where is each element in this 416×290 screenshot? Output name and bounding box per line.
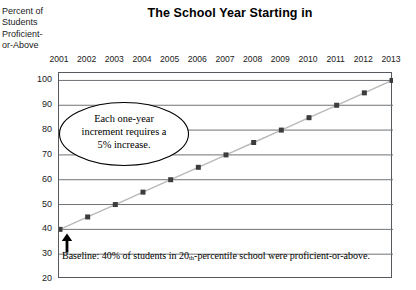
- data-point-marker: [224, 152, 229, 157]
- y-axis-tick-label: 70: [42, 149, 52, 159]
- x-axis-tick-label: 2001: [49, 54, 68, 64]
- x-axis-tick-label: 2005: [160, 54, 179, 64]
- data-point-marker: [390, 78, 394, 83]
- y-axis-tick-label: 20: [42, 273, 52, 283]
- data-point-marker: [113, 202, 118, 207]
- data-point-marker: [251, 140, 256, 145]
- y-axis-tick-label: 30: [42, 248, 52, 258]
- x-axis-tick-label: 2011: [326, 54, 344, 64]
- baseline-note-rest: -percentile school were proficient-or-ab…: [194, 250, 370, 261]
- y-axis-title: Percent of Students Proficient- or-Above: [2, 6, 62, 52]
- y-axis-title-line-4: or-Above: [2, 40, 62, 51]
- baseline-note-prefix: Baseline: 40% of students in 20: [62, 250, 189, 261]
- data-point-marker: [307, 115, 312, 120]
- x-axis-tick-labels: 2001200220032004200520062007200820092010…: [58, 54, 392, 68]
- x-axis-tick-label: 2010: [298, 54, 317, 64]
- data-point-marker: [362, 90, 367, 95]
- y-axis-tick-label: 50: [42, 199, 52, 209]
- y-axis-tick-label: 80: [42, 124, 52, 134]
- x-axis-tick-label: 2002: [77, 54, 96, 64]
- x-axis-tick-label: 2008: [243, 54, 262, 64]
- data-point-marker: [85, 214, 90, 219]
- data-point-marker: [196, 165, 201, 170]
- x-axis-tick-label: 2006: [188, 54, 207, 64]
- data-point-marker: [59, 227, 63, 232]
- plot-area: [58, 72, 392, 278]
- baseline-note: Baseline: 40% of students in 20th-percen…: [62, 250, 390, 263]
- y-axis-title-line-2: Students: [2, 17, 62, 28]
- plot-canvas: [59, 73, 393, 279]
- x-axis-tick-label: 2013: [381, 54, 400, 64]
- x-axis-tick-label: 2007: [215, 54, 234, 64]
- y-axis-tick-label: 100: [37, 74, 52, 84]
- y-axis-tick-label: 40: [42, 223, 52, 233]
- x-axis-tick-label: 2004: [132, 54, 151, 64]
- y-axis-tick-label: 90: [42, 99, 52, 109]
- y-axis-title-line-3: Proficient-: [2, 29, 62, 40]
- data-point-marker: [334, 103, 339, 108]
- page-title: The School Year Starting in: [120, 6, 340, 20]
- y-axis-tick-labels: 1009080706050403020: [24, 72, 56, 278]
- data-point-marker: [141, 190, 146, 195]
- x-axis-tick-label: 2003: [105, 54, 124, 64]
- chart-screenshot: The School Year Starting in Percent of S…: [0, 0, 416, 290]
- y-axis-title-line-1: Percent of: [2, 6, 62, 17]
- baseline-note-ordinal-suffix: th: [189, 254, 194, 261]
- data-point-marker: [168, 177, 173, 182]
- y-axis-tick-label: 60: [42, 174, 52, 184]
- x-axis-tick-label: 2009: [271, 54, 290, 64]
- data-point-marker: [279, 128, 284, 133]
- x-axis-tick-label: 2012: [354, 54, 373, 64]
